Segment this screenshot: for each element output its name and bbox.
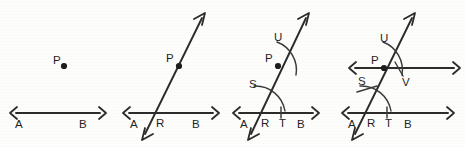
label-r: R	[367, 117, 375, 129]
label-t: T	[385, 117, 392, 129]
label-u: U	[274, 31, 282, 43]
construction-svg: P A B P A R B	[0, 0, 465, 147]
label-b: B	[297, 118, 305, 130]
panel-3: U P S A R T B	[233, 13, 319, 140]
label-b: B	[192, 118, 200, 130]
parallel-line	[349, 62, 460, 74]
label-s: S	[249, 78, 257, 90]
point-p	[176, 63, 182, 69]
label-a: A	[15, 118, 23, 130]
point-p	[275, 63, 281, 69]
line-ab	[342, 107, 454, 119]
label-t: T	[279, 117, 286, 129]
panel-4: U P V S A R T B	[342, 13, 460, 140]
label-a: A	[240, 118, 248, 130]
label-b: B	[404, 118, 412, 130]
label-p: P	[53, 54, 61, 66]
panel-1: P A B	[10, 54, 106, 130]
label-a: A	[348, 118, 356, 130]
label-s: S	[358, 75, 366, 87]
geometry-figure: P A B P A R B	[0, 0, 465, 147]
point-p	[381, 65, 387, 71]
label-a: A	[130, 118, 138, 130]
label-r: R	[156, 117, 164, 129]
label-p: P	[265, 52, 273, 64]
label-p: P	[166, 52, 174, 64]
label-r: R	[261, 117, 269, 129]
point-p	[61, 63, 67, 69]
line-ab	[10, 107, 106, 119]
label-p: P	[371, 54, 379, 66]
label-u: U	[380, 32, 388, 44]
label-b: B	[79, 118, 87, 130]
panel-2: P A R B	[123, 13, 219, 140]
label-v: V	[402, 76, 410, 88]
